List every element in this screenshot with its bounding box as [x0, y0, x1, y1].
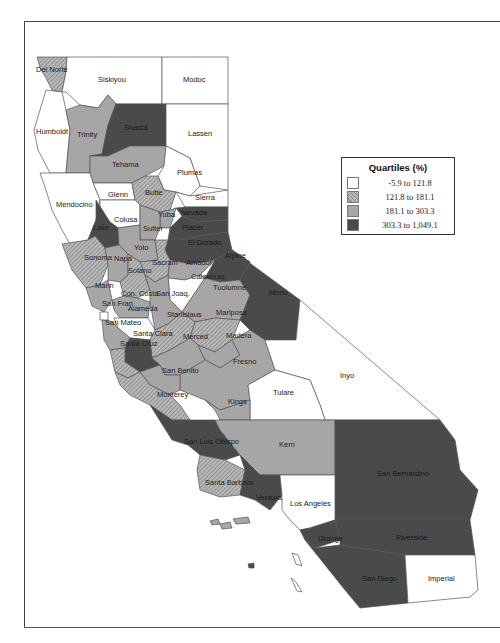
label-humboldt: Humboldt [36, 127, 69, 136]
label-plumas: Plumas [177, 168, 202, 177]
label-santa-barbara: Santa Barbara [205, 478, 254, 487]
label-sonoma: Sonoma [84, 253, 113, 262]
label-imperial: Imperial [428, 574, 455, 583]
label-orange: Orange [318, 534, 343, 543]
legend-range: 303.3 to 1,049.1 [367, 219, 453, 231]
legend-range: 181.1 to 303.3 [367, 205, 453, 217]
label-santa-cruz: Santa Cruz [120, 339, 158, 348]
legend-range: 121.8 to 181.1 [367, 191, 453, 203]
label-solano: Solano [128, 266, 151, 275]
island [291, 578, 302, 592]
legend-swatch [347, 205, 359, 217]
island [210, 519, 220, 525]
label-los-angeles: Los Angeles [290, 499, 331, 508]
island [292, 553, 302, 566]
label-san-diego: San Diego [362, 574, 397, 583]
legend-item-q2: 121.8 to 181.1 [347, 191, 453, 204]
label-yolo: Yolo [134, 243, 148, 252]
label-san-luis-obispo: San Luis Obispo [184, 437, 239, 446]
legend: Quartiles (%) -5.9 to 121.8 121.8 to 181… [341, 157, 455, 235]
label-madera: Madera [226, 331, 252, 340]
label-siskiyou: Siskiyou [98, 75, 126, 84]
label-nevada: Nevada [181, 208, 208, 217]
label-mendocino: Mendocino [56, 200, 93, 209]
label-monterey: Monterey [157, 390, 189, 399]
label-calaveras: Calaveras [191, 272, 225, 281]
label-ventura: Ventura [256, 493, 283, 502]
label-mono: Mono [269, 288, 288, 297]
label-san-benito: San Benito [162, 366, 199, 375]
label-san-mateo: San Mateo [105, 318, 141, 327]
label-amador: Amador [186, 258, 213, 267]
label-colusa: Colusa [114, 215, 138, 224]
label-alpine: Alpine [225, 251, 246, 260]
label-san-bernardino: San Bernardino [377, 469, 429, 478]
label-tuolumne: Tuolumne [213, 283, 246, 292]
county-santa-barbara [197, 455, 245, 497]
legend-item-q3: 181.1 to 303.3 [347, 205, 453, 218]
label-del-norte: Del Norte [36, 65, 68, 74]
island [233, 517, 250, 524]
legend-swatch [347, 219, 359, 231]
county-napa [105, 245, 128, 282]
label-mariposa: Mariposa [216, 308, 248, 317]
label-lassen: Lassen [188, 129, 212, 138]
legend-swatch [347, 177, 359, 189]
label-sutter: Sutter [143, 224, 164, 233]
legend-item-q1: -5.9 to 121.8 [347, 177, 453, 190]
label-fresno: Fresno [233, 357, 256, 366]
legend-item-q4: 303.3 to 1,049.1 [347, 219, 453, 232]
label-butte: Butte [145, 188, 163, 197]
label-tehama: Tehama [112, 160, 140, 169]
label-el-dorado: El Dorado [188, 238, 221, 247]
county-del-norte [37, 57, 67, 92]
label-san-joaquin: San Joaq. [156, 289, 190, 298]
label-santa-clara: Santa Clara [133, 329, 173, 338]
label-kings: Kings [228, 397, 247, 406]
legend-swatch [347, 191, 359, 203]
label-yuba: Yuba [158, 210, 176, 219]
label-placer: Placer [182, 223, 204, 232]
island [220, 522, 232, 529]
label-trinity: Trinity [77, 130, 97, 139]
legend-range: -5.9 to 121.8 [367, 177, 453, 189]
label-stanislaus: Stanislaus [167, 310, 202, 319]
label-napa: Napa [114, 254, 133, 263]
label-sierra: Sierra [195, 193, 216, 202]
label-kern: Kern [279, 440, 295, 449]
legend-title: Quartiles (%) [342, 162, 454, 173]
label-alameda: Alameda [128, 304, 158, 313]
label-glenn: Glenn [108, 190, 128, 199]
island [248, 563, 254, 568]
label-contra-costa: Con. Costa [121, 289, 159, 298]
label-sacramento: Sacram [152, 258, 178, 267]
california-county-map: Del Norte Siskiyou Modoc Humboldt Trinit… [0, 0, 500, 643]
label-lake: Lake [93, 223, 109, 232]
label-merced: Merced [183, 332, 208, 341]
label-marin: Marin [95, 281, 114, 290]
label-riverside: Riverside [396, 533, 427, 542]
label-inyo: Inyo [340, 371, 354, 380]
label-shasta: Shasta [124, 123, 148, 132]
label-tulare: Tulare [273, 388, 294, 397]
label-modoc: Modoc [183, 75, 206, 84]
